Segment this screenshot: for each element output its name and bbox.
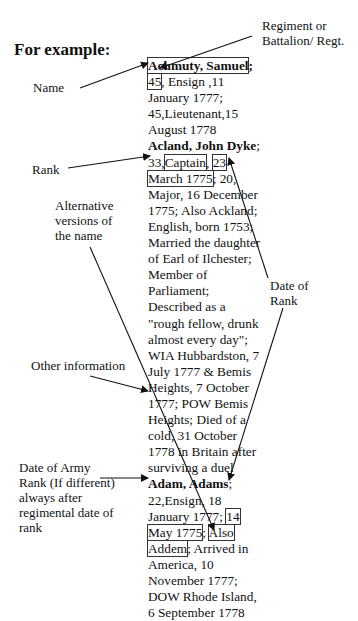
entry-line: Married the daughter bbox=[148, 235, 308, 251]
label-date-of-army-line: rank bbox=[19, 520, 115, 535]
entry-line: Major, 16 December bbox=[148, 187, 308, 203]
label-rank: Rank bbox=[32, 162, 59, 177]
label-date-of-army-line: Rank (If different) bbox=[19, 475, 115, 490]
entry-line: surviving a duel bbox=[148, 460, 308, 476]
heading: For example: bbox=[14, 40, 110, 60]
entry-text: January 1777; bbox=[148, 509, 226, 524]
entry-date-of-rank: 23 bbox=[213, 155, 226, 170]
label-regiment-line: Regiment or bbox=[262, 18, 344, 33]
entry-line: Member of bbox=[148, 267, 308, 283]
entry-line: Heights; Died of a bbox=[148, 412, 308, 428]
entry-line: November 1777; bbox=[148, 573, 308, 589]
label-alternative-line: Alternative bbox=[55, 198, 113, 213]
entry-acland: Acland, John Dyke; 33,Captain, 23 March … bbox=[148, 138, 308, 476]
arrow-name bbox=[80, 63, 148, 88]
entry-regiment: 45 bbox=[148, 74, 161, 89]
entry-line: 1775; Also Ackland; bbox=[148, 203, 308, 219]
entry-line: English, born 1753; bbox=[148, 219, 308, 235]
entry-army-date: 14 bbox=[226, 509, 239, 524]
label-other-info: Other information bbox=[31, 358, 125, 373]
label-date-of-army: Date of Army Rank (If different) always … bbox=[19, 460, 115, 535]
label-alternative-line: versions of bbox=[55, 213, 113, 228]
label-date-of-army-line: always after bbox=[19, 490, 115, 505]
entry-army-date-cont: May 1775 bbox=[148, 525, 202, 540]
entry-line: Heights, 7 October bbox=[148, 380, 308, 396]
entry-line: Described as a bbox=[148, 299, 308, 315]
label-regiment-line: Battalion/ Regt. bbox=[262, 33, 344, 48]
entry-line: DOW Rhode Island, bbox=[148, 589, 308, 605]
entry-name: Achmuty, Samuel bbox=[148, 58, 248, 73]
entry-achmuty: Achmuty, Samuel; 45, Ensign ,11 January … bbox=[148, 58, 308, 138]
entry-text: , Ensign ,11 bbox=[161, 74, 224, 89]
entries-column: Achmuty, Samuel; 45, Ensign ,11 January … bbox=[148, 58, 308, 621]
entry-line: "rough fellow, drunk bbox=[148, 316, 308, 332]
entry-text: ; bbox=[202, 525, 208, 540]
label-date-of-army-line: Date of Army bbox=[19, 460, 115, 475]
entry-line: 45,Lieutenant,15 bbox=[148, 106, 308, 122]
entry-date-of-rank-cont: March 1775 bbox=[148, 171, 213, 186]
label-date-of-army-line: regimental date of bbox=[19, 505, 115, 520]
entry-line: 22,Ensign, 18 bbox=[148, 493, 308, 509]
arrow-rank bbox=[68, 156, 150, 168]
entry-line: July 1777 & Bemis bbox=[148, 364, 308, 380]
entry-adam: Adam, Adams; 22,Ensign, 18 January 1777;… bbox=[148, 476, 308, 621]
entry-regiment: 33, bbox=[148, 155, 165, 170]
entry-text: ; 20, bbox=[213, 171, 237, 186]
label-alternative-line: the name bbox=[55, 228, 113, 243]
label-regiment: Regiment or Battalion/ Regt. bbox=[262, 18, 344, 48]
entry-alternative-name-cont: Addem bbox=[148, 541, 187, 556]
entry-line: 6 September 1778 bbox=[148, 605, 308, 621]
entry-name: Adam, Adams bbox=[148, 476, 229, 491]
entry-line: 1778 in Britain after bbox=[148, 444, 308, 460]
comma: , bbox=[206, 155, 213, 170]
label-alternative: Alternative versions of the name bbox=[55, 198, 113, 243]
semicolon: ; bbox=[248, 58, 252, 73]
semicolon: ; bbox=[229, 476, 233, 491]
entry-line: 1777; POW Bemis bbox=[148, 396, 308, 412]
entry-line: of Earl of Ilchester; bbox=[148, 251, 308, 267]
entry-text: ; Arrived in bbox=[187, 541, 248, 556]
entry-line: Parliament; bbox=[148, 283, 308, 299]
entry-rank: Captain bbox=[165, 155, 206, 170]
entry-line: WIA Hubbardston, 7 bbox=[148, 348, 308, 364]
label-name: Name bbox=[33, 80, 64, 95]
arrow-other-info bbox=[90, 376, 148, 391]
entry-line: cold, 31 October bbox=[148, 428, 308, 444]
entry-alternative-name: Also bbox=[209, 525, 234, 540]
entry-line: January 1777; bbox=[148, 90, 308, 106]
entry-line: almost every day"; bbox=[148, 332, 308, 348]
semicolon: ; bbox=[256, 138, 260, 153]
entry-line: America, 10 bbox=[148, 557, 308, 573]
entry-line: August 1778 bbox=[148, 122, 308, 138]
entry-name: Acland, John Dyke bbox=[148, 138, 256, 153]
